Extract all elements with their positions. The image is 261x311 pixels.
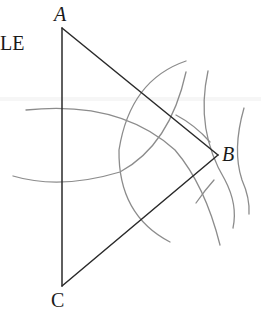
vertex-label-b: B — [222, 144, 234, 164]
construction-arc-lower — [13, 72, 186, 182]
vertex-label-a: A — [54, 4, 66, 24]
side-bc — [62, 155, 218, 286]
side-ab — [62, 28, 218, 155]
construction-arc-upper — [26, 108, 220, 245]
construction-arc-right-outer — [237, 108, 249, 214]
vertex-label-c: C — [51, 290, 64, 310]
partial-heading-text: LE — [0, 33, 24, 53]
